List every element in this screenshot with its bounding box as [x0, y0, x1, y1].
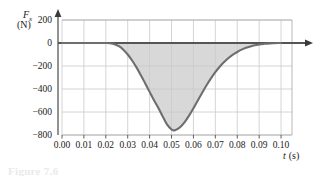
x-axis-unit: (s) — [289, 150, 300, 162]
x-tick-label: 0.09 — [251, 140, 268, 150]
y-axis-line — [55, 9, 62, 135]
y-tick-label: −800 — [32, 130, 52, 140]
x-tick-label: 0.01 — [76, 140, 93, 150]
x-tick-label: 0.08 — [229, 140, 246, 150]
x-axis-title: t(s) — [283, 150, 299, 162]
x-tick-label: 0.04 — [141, 140, 158, 150]
x-tick-label: 0.03 — [119, 140, 136, 150]
y-tick-label: −600 — [32, 107, 52, 117]
x-axis-tick-labels: 0.000.010.020.030.040.050.060.070.080.09… — [54, 140, 290, 150]
x-tick-label: 0.07 — [207, 140, 224, 150]
x-tick-label: 0.10 — [273, 140, 290, 150]
vertical-gridlines — [62, 20, 281, 135]
x-axis-tick-marks — [62, 135, 281, 139]
y-tick-label: 0 — [47, 38, 52, 48]
x-tick-label: 0.02 — [97, 140, 114, 150]
x-tick-label: 0.00 — [54, 140, 71, 150]
figure-container: 2000−200−400−600−800 0.000.010.020.030.0… — [0, 0, 326, 176]
svg-text:t(s): t(s) — [283, 150, 299, 162]
x-axis-symbol: t — [283, 150, 286, 161]
y-axis-tick-labels: 2000−200−400−600−800 — [32, 15, 52, 140]
y-tick-label: −400 — [32, 84, 52, 94]
force-vs-time-chart: 2000−200−400−600−800 0.000.010.020.030.0… — [0, 0, 326, 176]
y-tick-label: 200 — [38, 15, 53, 25]
x-tick-label: 0.05 — [163, 140, 180, 150]
y-axis-title: Fx (N) — [17, 9, 33, 31]
y-tick-label: −200 — [32, 61, 52, 71]
figure-caption-partial: Figure 7.6 — [8, 166, 58, 176]
x-tick-label: 0.06 — [185, 140, 202, 150]
y-axis-unit: (N) — [17, 19, 31, 31]
